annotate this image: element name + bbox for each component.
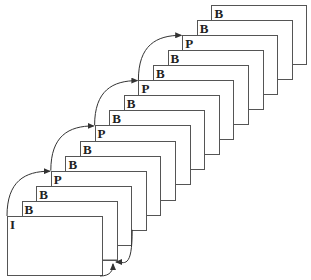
forward-prediction-arrow [51,126,94,171]
forward-prediction-arrow [138,35,181,80]
forward-prediction-arrow [7,171,50,216]
forward-prediction-arrow [95,81,138,126]
backward-prediction-arrow [100,264,113,276]
gop-frame-diagram: BBPBBPBBPBBPBBI [0,0,311,280]
backward-prediction-arrow [116,230,132,263]
prediction-arrows [0,0,311,280]
